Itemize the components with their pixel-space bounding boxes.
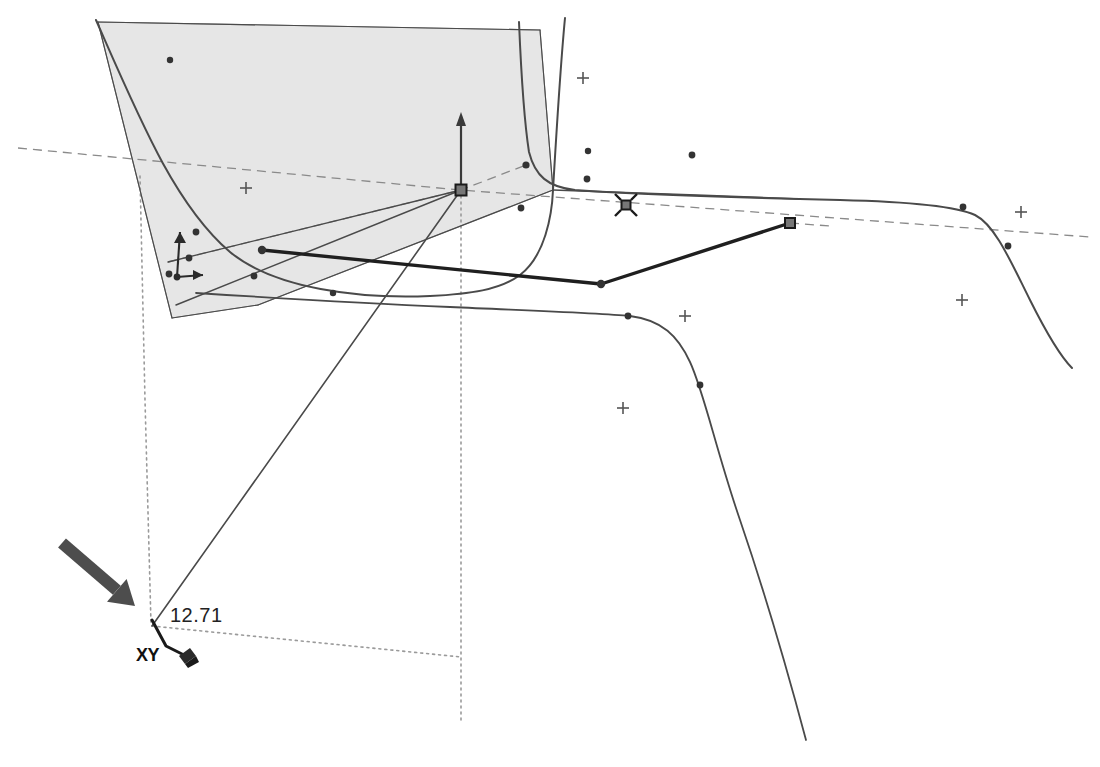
- guide-cross: [956, 294, 968, 306]
- vertex[interactable]: [1005, 243, 1012, 250]
- guide-dotted-base-horizontal: [152, 626, 461, 657]
- vertex[interactable]: [597, 280, 605, 288]
- vertex[interactable]: [330, 290, 336, 296]
- selection-handle-endpoint[interactable]: [785, 218, 795, 228]
- origin-node-handle[interactable]: [456, 185, 467, 196]
- guide-cross: [617, 402, 629, 414]
- vertex[interactable]: [689, 152, 696, 159]
- curve-top-right-sweep[interactable]: [519, 22, 1072, 368]
- vertex[interactable]: [697, 382, 704, 389]
- guide-cross: [577, 72, 589, 84]
- pencil-cursor-icon: [179, 648, 199, 668]
- vertex[interactable]: [251, 273, 258, 280]
- scene-svg: [0, 0, 1100, 767]
- guide-cross: [1015, 206, 1027, 218]
- selection-handle-with-move-cursor[interactable]: [615, 194, 637, 216]
- cad-viewport[interactable]: 12.71 XY: [0, 0, 1100, 767]
- vertex[interactable]: [584, 176, 591, 183]
- vertex[interactable]: [167, 57, 173, 63]
- vertex[interactable]: [193, 229, 200, 236]
- vertex[interactable]: [585, 148, 591, 154]
- vertex[interactable]: [625, 313, 632, 320]
- dimension-leader: [152, 620, 186, 656]
- vertex[interactable]: [186, 255, 193, 262]
- curve-lower-right-sweep[interactable]: [196, 293, 806, 740]
- vertex[interactable]: [166, 271, 173, 278]
- vertex[interactable]: [258, 246, 266, 254]
- vertex[interactable]: [522, 161, 529, 168]
- vertex[interactable]: [960, 204, 967, 211]
- vertex[interactable]: [518, 205, 525, 212]
- curve-right-tail[interactable]: [553, 190, 800, 199]
- guide-dotted-vertical-left: [140, 176, 151, 624]
- guide-cross: [679, 310, 691, 322]
- callout-arrow: [62, 543, 135, 606]
